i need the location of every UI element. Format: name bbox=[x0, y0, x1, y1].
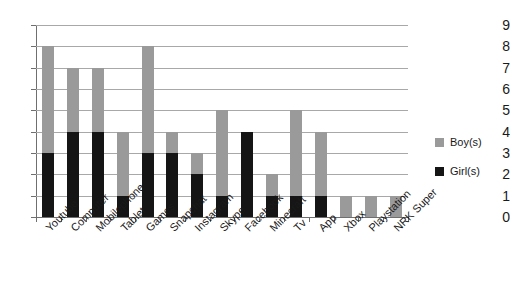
bar-segment-boys bbox=[290, 110, 302, 195]
bar-segment-boys bbox=[340, 196, 352, 217]
y-axis-tick-label: 9 bbox=[482, 18, 510, 32]
bar-segment-boys bbox=[166, 132, 178, 153]
y-axis-tick-label: 6 bbox=[482, 82, 510, 96]
plot-area bbox=[36, 25, 408, 217]
bar-segment-girls bbox=[42, 153, 54, 217]
x-axis-tick-mark bbox=[309, 217, 310, 222]
bar-group bbox=[191, 25, 203, 217]
y-axis-tick-label: 1 bbox=[482, 189, 510, 203]
bar-segment-boys bbox=[42, 46, 54, 153]
bar-segment-boys bbox=[67, 68, 79, 132]
bar-group bbox=[216, 25, 228, 217]
bar-group bbox=[67, 25, 79, 217]
y-axis-tick-label: 4 bbox=[482, 125, 510, 139]
bar-group bbox=[117, 25, 129, 217]
bar-group bbox=[315, 25, 327, 217]
bar-group bbox=[290, 25, 302, 217]
legend-label: Boy(s) bbox=[450, 137, 482, 148]
chart-legend: Boy(s)Girl(s) bbox=[435, 136, 482, 194]
legend-item[interactable]: Boy(s) bbox=[435, 136, 482, 148]
bar-segment-boys bbox=[92, 68, 104, 132]
x-axis-category-label: Tv bbox=[292, 217, 308, 233]
bar-segment-boys bbox=[365, 196, 377, 217]
bar-segment-girls bbox=[315, 196, 327, 217]
bar-group bbox=[241, 25, 253, 217]
y-axis-tick-label: 2 bbox=[482, 167, 510, 181]
bar-segment-boys bbox=[142, 46, 154, 153]
bar-chart: 0123456789 YoutubeComputerMobilephoneTab… bbox=[0, 0, 510, 306]
bar-group bbox=[166, 25, 178, 217]
bar-group bbox=[390, 25, 402, 217]
x-axis-tick-mark bbox=[36, 217, 37, 222]
y-axis-tick-label: 8 bbox=[482, 39, 510, 53]
bar-segment-boys bbox=[191, 153, 203, 174]
legend-label: Girl(s) bbox=[450, 166, 480, 177]
bar-group bbox=[92, 25, 104, 217]
y-axis-tick-label: 0 bbox=[482, 210, 510, 224]
bar-segment-girls bbox=[241, 132, 253, 217]
bar-segment-girls bbox=[142, 153, 154, 217]
y-axis-tick-label: 7 bbox=[482, 61, 510, 75]
bar-segment-boys bbox=[216, 110, 228, 195]
legend-swatch-icon bbox=[435, 167, 444, 176]
bar-group bbox=[266, 25, 278, 217]
y-axis-tick-label: 5 bbox=[482, 103, 510, 117]
bar-group bbox=[340, 25, 352, 217]
y-axis-tick-label: 3 bbox=[482, 146, 510, 160]
bar-group bbox=[365, 25, 377, 217]
legend-item[interactable]: Girl(s) bbox=[435, 165, 482, 177]
legend-swatch-icon bbox=[435, 138, 444, 147]
bar-segment-boys bbox=[315, 132, 327, 196]
bar-group bbox=[42, 25, 54, 217]
bar-segment-boys bbox=[117, 132, 129, 196]
